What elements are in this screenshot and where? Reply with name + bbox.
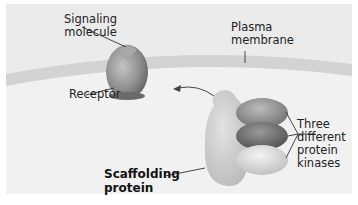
label-kinases: Three different protein kinases <box>297 118 346 170</box>
kinase-3 <box>236 145 288 175</box>
label-line: kinases <box>297 157 346 170</box>
label-receptor: Receptor <box>69 88 121 101</box>
label-line: Scaffolding <box>104 167 180 181</box>
label-line: membrane <box>231 34 294 47</box>
label-line: protein <box>104 181 180 195</box>
label-line: molecule <box>64 26 117 39</box>
label-signaling-molecule: Signaling molecule <box>64 13 117 39</box>
label-plasma-membrane: Plasma membrane <box>231 21 294 47</box>
label-scaffolding-protein: Scaffolding protein <box>104 167 180 195</box>
diagram-canvas: Signaling molecule Plasma membrane Recep… <box>0 0 358 205</box>
